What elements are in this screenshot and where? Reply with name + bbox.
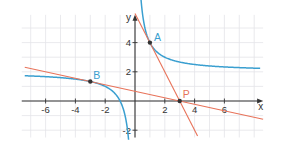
x-tick-label: -2	[101, 104, 109, 115]
x-tick-label: -4	[71, 104, 79, 115]
tangent-line-1	[135, 13, 198, 136]
x-tick-label: 6	[222, 104, 227, 115]
function-graph: x y -6-4-2246-224 ABP	[0, 0, 281, 151]
grid	[22, 15, 263, 138]
point-b	[88, 79, 92, 83]
point-label-p: P	[183, 88, 190, 100]
point-p	[178, 99, 182, 103]
x-axis-label: x	[258, 101, 263, 112]
y-tick-label: 4	[126, 37, 131, 48]
point-label-a: A	[154, 31, 161, 43]
y-axis-label: y	[126, 12, 131, 23]
point-label-b: B	[93, 69, 100, 81]
x-tick-label: 4	[192, 104, 197, 115]
y-tick-label: 2	[126, 66, 131, 77]
point-a	[148, 40, 152, 44]
x-tick-label: -6	[41, 104, 49, 115]
x-tick-label: 2	[162, 104, 167, 115]
